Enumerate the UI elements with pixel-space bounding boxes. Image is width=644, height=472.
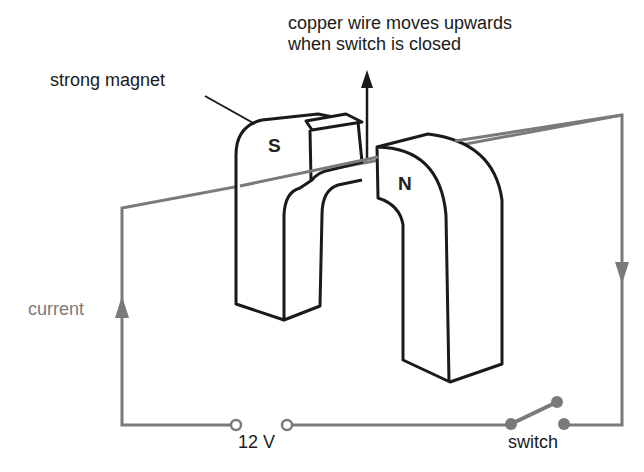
- switch-label: switch: [508, 432, 558, 453]
- terminal-right-icon: [282, 420, 292, 430]
- caption-line-2: when switch is closed: [288, 34, 512, 55]
- switch-icon: [505, 396, 570, 430]
- magnet-south-icon: [236, 114, 362, 320]
- motor-effect-diagram: copper wire moves upwards when switch is…: [0, 0, 644, 472]
- magnet-north-icon: [377, 134, 502, 382]
- circuit-wire: [122, 115, 622, 425]
- force-arrow-up-icon: [361, 70, 373, 88]
- caption-line-1: copper wire moves upwards: [288, 13, 512, 34]
- current-arrow-down-icon: [615, 262, 629, 284]
- south-pole-label: S: [268, 135, 281, 157]
- current-label: current: [28, 299, 84, 320]
- voltage-label: 12 V: [238, 432, 275, 453]
- wire-top-right: [455, 115, 622, 141]
- current-arrow-up-icon: [115, 296, 129, 318]
- north-pole-label: N: [398, 173, 412, 195]
- magnet-label: strong magnet: [50, 70, 165, 91]
- magnet-leader-line: [205, 96, 255, 124]
- caption: copper wire moves upwards when switch is…: [288, 13, 512, 55]
- terminal-left-icon: [231, 420, 241, 430]
